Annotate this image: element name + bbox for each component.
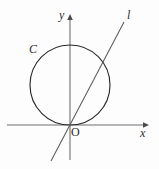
y-axis-label: y (59, 9, 64, 21)
figure-canvas (0, 0, 159, 169)
line-l (51, 22, 124, 161)
x-axis-label: x (140, 127, 145, 139)
line-label-l: l (127, 9, 130, 21)
geometry-figure: y x O C l (0, 0, 159, 169)
origin-label: O (71, 126, 80, 138)
circle-label-c: C (29, 43, 37, 55)
y-axis-arrow-icon (67, 14, 73, 20)
